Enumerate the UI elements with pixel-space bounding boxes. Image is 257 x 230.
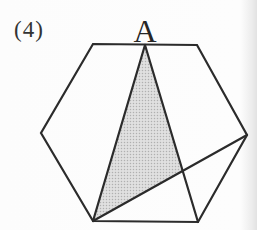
hexagon-diagram: A — [0, 0, 257, 230]
vertex-label-a: A — [133, 13, 156, 49]
figure-canvas: (4) A — [0, 0, 257, 230]
